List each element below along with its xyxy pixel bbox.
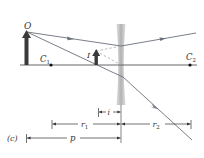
virtual-ray-1 — [96, 46, 121, 51]
image-label: I — [86, 51, 91, 60]
panel-label: (c) — [7, 134, 18, 143]
diverging-lens — [117, 24, 126, 105]
image-arrowhead-icon — [92, 49, 100, 56]
center-c1-label: C1 — [40, 54, 50, 65]
dimension-i-label: i — [108, 108, 111, 117]
center-c2-label: C2 — [186, 52, 196, 63]
dimension-r1-label: r1 — [81, 120, 88, 130]
dimension-p-label: p — [70, 133, 76, 143]
lens-ray-diagram: O I C1 C2 i r1 r2 — [0, 0, 204, 158]
object-arrowhead-icon — [22, 30, 31, 38]
dimension-r2-label: r2 — [153, 120, 160, 130]
object-arrow — [25, 36, 29, 65]
object-label: O — [24, 21, 32, 31]
center-c2-dot — [188, 63, 191, 66]
virtual-ray-2 — [96, 51, 121, 65]
ray-2-arrow-icon — [150, 104, 158, 110]
